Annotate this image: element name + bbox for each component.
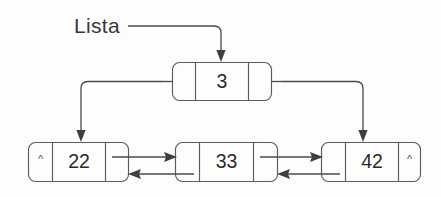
lista-to-header-arrowhead	[216, 50, 225, 62]
diagram-canvas: 3 ^ 22 33	[0, 0, 441, 197]
header-right-arrowhead	[358, 130, 367, 142]
header-left-link	[76, 82, 172, 143]
node-22[interactable]: ^ 22	[29, 143, 129, 182]
lista-pointer-label: Lista	[74, 14, 120, 37]
node-33-value: 33	[216, 150, 238, 172]
header-left-to-first-line	[81, 82, 163, 133]
node-22-value: 22	[68, 150, 90, 172]
node-22-prev-nil-marker: ^	[38, 153, 44, 165]
header-right-to-last-line	[281, 82, 363, 133]
node-42[interactable]: 42 ^	[322, 143, 421, 182]
node-42-next-nil-marker: ^	[407, 153, 413, 165]
node-42-value: 42	[361, 150, 383, 172]
linked-list-diagram: 3 ^ 22 33	[0, 0, 441, 197]
lista-to-header-line	[128, 26, 221, 52]
header-node-value: 3	[217, 70, 228, 92]
header-right-link	[272, 82, 368, 143]
header-left-arrowhead	[76, 130, 85, 142]
header-node[interactable]: 3	[173, 63, 272, 101]
node-33[interactable]: 33	[176, 143, 278, 182]
lista-pointer-link	[128, 26, 226, 62]
